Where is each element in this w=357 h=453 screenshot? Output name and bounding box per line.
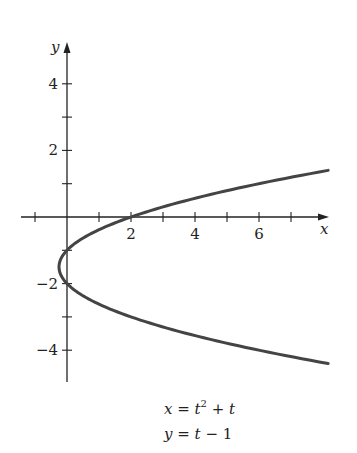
equation-y: y = t − 1 bbox=[164, 425, 232, 443]
y-tick-label: −4 bbox=[36, 341, 58, 359]
y-tick-label: 4 bbox=[48, 75, 58, 93]
y-tick-label: −2 bbox=[36, 275, 58, 293]
eq2-rest: − 1 bbox=[201, 425, 233, 443]
equation-x: x = t2 + t bbox=[164, 400, 235, 418]
parametric-curve bbox=[59, 170, 328, 363]
eq1-t2: t bbox=[229, 400, 235, 418]
y-axis-label: y bbox=[50, 38, 60, 56]
x-tick-label: 4 bbox=[190, 225, 200, 243]
eq1-plus: + bbox=[207, 400, 229, 418]
y-tick-label: 2 bbox=[48, 141, 58, 159]
x-tick-label: 2 bbox=[126, 225, 136, 243]
x-tick-label: 6 bbox=[254, 225, 264, 243]
eq1-equals: = bbox=[172, 400, 194, 418]
parametric-plot: 24642−2−4 x y bbox=[0, 0, 357, 453]
eq2-equals: = bbox=[172, 425, 194, 443]
y-axis-arrow-icon bbox=[64, 42, 71, 53]
x-axis-label: x bbox=[320, 220, 329, 238]
